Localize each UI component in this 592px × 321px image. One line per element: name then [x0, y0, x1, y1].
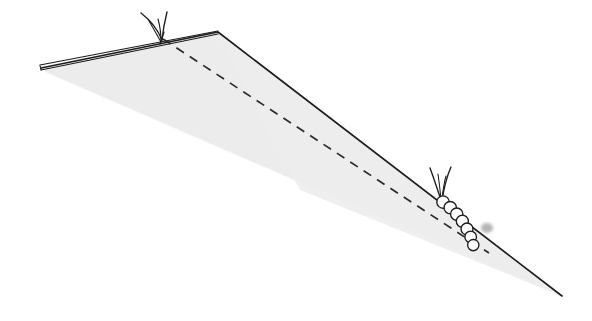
- figure-canvas: [0, 0, 592, 321]
- caterpillar-tail-shadow: [481, 223, 493, 233]
- caterpillar-segment-7: [468, 239, 479, 250]
- illustration-svg: [0, 0, 592, 321]
